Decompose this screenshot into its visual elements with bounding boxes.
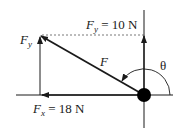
force-diagram: Fy = 10 N Fy F θ Fx = 18 N xyxy=(0,0,180,138)
fy-left-label: Fy xyxy=(19,32,32,49)
fx-label: Fx = 18 N xyxy=(32,101,85,118)
resultant-vector-f xyxy=(41,36,144,95)
f-label: F xyxy=(99,54,109,69)
fy-top-label: Fy = 10 N xyxy=(85,17,138,34)
theta-label: θ xyxy=(160,58,166,73)
body-dot xyxy=(137,88,151,102)
